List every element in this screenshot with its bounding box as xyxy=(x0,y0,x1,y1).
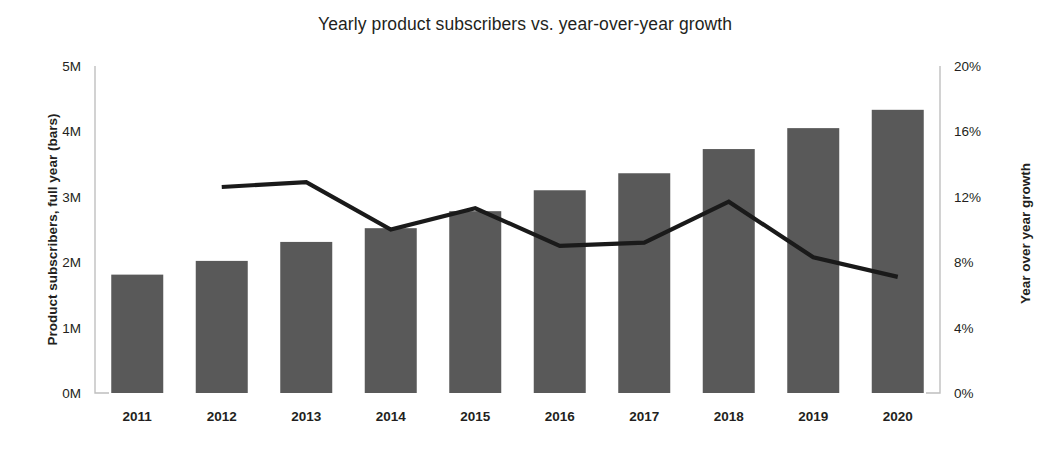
bar xyxy=(280,242,332,393)
y-axis-left-tick-label: 4M xyxy=(62,124,81,139)
y-axis-left-line xyxy=(95,66,109,393)
y-axis-left-tick-label: 5M xyxy=(62,59,81,74)
y-axis-right-tick-label: 20% xyxy=(954,59,981,74)
x-axis-tick-label: 2014 xyxy=(376,409,407,424)
x-axis-tick-label: 2018 xyxy=(714,409,745,424)
x-axis-tick-label: 2019 xyxy=(798,409,828,424)
y-axis-right-tick-label: 4% xyxy=(954,321,974,336)
y-axis-right-tick-label: 16% xyxy=(954,124,981,139)
x-axis-tick-label: 2013 xyxy=(291,409,322,424)
y-axis-left-tick-label: 1M xyxy=(62,321,81,336)
y-axis-left-ticks: 0M1M2M3M4M5M xyxy=(62,59,81,401)
bar xyxy=(618,173,670,393)
bar xyxy=(534,190,586,393)
x-axis-tick-label: 2015 xyxy=(460,409,491,424)
x-axis-tick-label: 2016 xyxy=(545,409,576,424)
chart-plot-area: 0M1M2M3M4M5M 0%4%8%12%16%20% 20112012201… xyxy=(0,0,1050,457)
y-axis-right-line xyxy=(926,66,940,393)
chart-container: Yearly product subscribers vs. year-over… xyxy=(0,0,1050,457)
x-axis-tick-label: 2020 xyxy=(883,409,913,424)
x-axis-tick-label: 2011 xyxy=(123,409,153,424)
bar xyxy=(703,149,755,393)
x-axis-labels: 2011201220132014201520162017201820192020 xyxy=(123,409,913,424)
bar xyxy=(872,110,924,393)
bar xyxy=(449,211,501,393)
y-axis-left-tick-label: 2M xyxy=(62,255,81,270)
x-axis-tick-label: 2012 xyxy=(207,409,237,424)
y-axis-right-ticks: 0%4%8%12%16%20% xyxy=(954,59,981,401)
bar xyxy=(111,275,163,393)
y-axis-right-tick-label: 12% xyxy=(954,190,981,205)
y-axis-left-tick-label: 3M xyxy=(62,190,81,205)
bar xyxy=(196,261,248,393)
y-axis-right-tick-label: 0% xyxy=(954,386,974,401)
x-axis-tick-label: 2017 xyxy=(629,409,659,424)
y-axis-right-tick-label: 8% xyxy=(954,255,974,270)
bar xyxy=(365,228,417,393)
y-axis-left-tick-label: 0M xyxy=(62,386,81,401)
